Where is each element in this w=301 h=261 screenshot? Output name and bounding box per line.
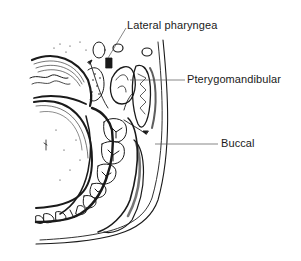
label-pterygomandibular: Pterygomandibular: [187, 73, 281, 85]
leader-line-lateral-pharyngeal: [108, 28, 126, 58]
anatomical-diagram: Lateral pharyngea Pterygomandibular Bucc…: [0, 0, 301, 261]
vessel-3: [142, 48, 152, 56]
label-lateral-pharyngeal: Lateral pharyngea: [127, 19, 217, 31]
medial-pterygoid: [110, 67, 135, 104]
gum-band: [36, 108, 113, 222]
masseter-ramus: [132, 65, 150, 127]
label-buccal: Buccal: [221, 137, 255, 149]
buccinator: [98, 118, 137, 232]
stylohyoid-dark: [106, 58, 112, 68]
vessel-1: [93, 42, 105, 58]
tongue-contour: [34, 101, 92, 208]
vessel-2: [113, 44, 123, 52]
palate-arc: [32, 56, 91, 106]
jaw-cross-section-drawing: [0, 0, 301, 261]
